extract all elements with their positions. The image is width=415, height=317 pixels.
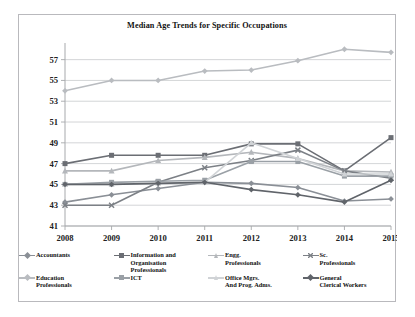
legend-label: ICT	[130, 274, 142, 282]
y-axis-tick-label: 55	[49, 75, 58, 85]
y-axis-tick-label: 57	[49, 55, 58, 65]
y-axis-tick-label: 53	[49, 96, 58, 106]
x-axis-tick-label: 2015	[382, 233, 397, 243]
legend-item[interactable]: Information and Organisation Professiona…	[114, 251, 209, 274]
x-axis-tick-label: 2012	[243, 233, 260, 243]
x-axis-tick-label: 2008	[56, 233, 74, 243]
data-point-marker	[389, 135, 394, 140]
legend-marker-icon	[19, 274, 35, 282]
data-point-marker	[388, 49, 394, 55]
legend-row: Education ProfessionalsICTOffice Mgrs. A…	[19, 274, 397, 289]
data-point-marker	[295, 192, 301, 198]
legend-label: Engg. Professionals	[224, 251, 261, 266]
data-point-marker	[248, 67, 254, 73]
legend-marker-icon	[208, 252, 224, 260]
legend-label: Education Professionals	[35, 274, 72, 289]
data-point-marker	[342, 46, 348, 52]
x-axis-tick-label: 2014	[336, 233, 354, 243]
data-point-marker	[109, 78, 115, 84]
series-line	[65, 49, 391, 91]
data-point-marker	[248, 180, 254, 186]
chart-legend: AccountantsInformation and Organisation …	[19, 251, 397, 301]
y-axis-tick-label: 41	[49, 221, 58, 231]
legend-label: Accountants	[35, 251, 70, 259]
legend-item[interactable]: ICT	[114, 274, 209, 289]
plot-area: 4143454749515355572008200920102011201220…	[19, 37, 397, 249]
data-point-marker	[248, 187, 254, 193]
line-chart-svg: 4143454749515355572008200920102011201220…	[19, 37, 397, 249]
legend-marker-icon	[19, 252, 35, 260]
legend-marker-icon	[114, 252, 130, 260]
y-axis-tick-label: 51	[49, 117, 58, 127]
legend-item[interactable]: Sc. Professionals	[303, 251, 398, 274]
data-point-marker	[249, 159, 254, 164]
legend-item[interactable]: Education Professionals	[19, 274, 114, 289]
y-axis-tick-label: 45	[49, 179, 58, 189]
x-axis-tick-label: 2009	[103, 233, 120, 243]
data-point-marker	[156, 153, 161, 158]
y-axis-tick-label: 49	[49, 138, 58, 148]
x-axis-tick-label: 2010	[150, 233, 167, 243]
data-point-marker	[202, 68, 208, 74]
data-point-marker	[109, 153, 114, 158]
data-point-marker	[109, 192, 115, 198]
x-axis-tick-label: 2011	[196, 233, 213, 243]
x-axis-tick-label: 2013	[289, 233, 306, 243]
data-point-marker	[62, 88, 68, 94]
data-point-marker	[155, 186, 161, 192]
y-axis-tick-label: 43	[49, 200, 58, 210]
legend-item[interactable]: Accountants	[19, 251, 114, 274]
legend-marker-icon	[114, 274, 130, 282]
legend-item[interactable]: Office Mgrs. And Prog. Adms.	[208, 274, 303, 289]
legend-marker-icon	[303, 274, 319, 282]
legend-item[interactable]: General Clerical Workers	[303, 274, 398, 289]
legend-row: AccountantsInformation and Organisation …	[19, 251, 397, 274]
data-point-marker	[63, 161, 68, 166]
legend-label: Office Mgrs. And Prog. Adms.	[224, 274, 272, 289]
y-axis-tick-label: 47	[49, 159, 58, 169]
legend-label: General Clerical Workers	[319, 274, 367, 289]
chart-card: Median Age Trends for Specific Occupatio…	[18, 14, 396, 302]
data-point-marker	[295, 58, 301, 64]
legend-marker-icon	[303, 252, 319, 260]
legend-marker-icon	[208, 274, 224, 282]
legend-label: Information and Organisation Professiona…	[130, 251, 176, 274]
data-point-marker	[295, 141, 300, 146]
chart-title: Median Age Trends for Specific Occupatio…	[19, 21, 395, 30]
data-point-marker	[388, 196, 394, 202]
legend-item[interactable]: Engg. Professionals	[208, 251, 303, 274]
data-point-marker	[155, 78, 161, 84]
data-point-marker	[295, 185, 301, 191]
legend-label: Sc. Professionals	[319, 251, 356, 266]
series-education-professionals	[62, 46, 394, 93]
